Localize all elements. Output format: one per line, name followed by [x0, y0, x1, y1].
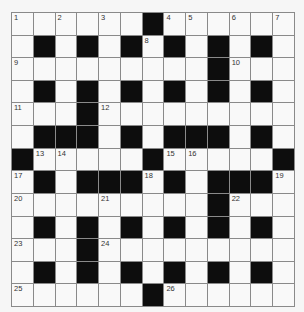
grid-cell[interactable]: 1 [12, 13, 33, 35]
grid-cell[interactable] [273, 194, 294, 216]
grid-cell[interactable] [99, 284, 120, 306]
grid-cell[interactable] [186, 284, 207, 306]
grid-cell[interactable] [56, 103, 77, 125]
grid-cell[interactable]: 6 [230, 13, 251, 35]
grid-cell[interactable] [208, 13, 229, 35]
grid-cell[interactable] [186, 217, 207, 239]
grid-cell[interactable] [273, 284, 294, 306]
grid-cell[interactable]: 4 [164, 13, 185, 35]
grid-cell[interactable] [273, 239, 294, 261]
grid-cell[interactable] [121, 149, 142, 171]
grid-cell[interactable]: 25 [12, 284, 33, 306]
grid-cell[interactable] [230, 81, 251, 103]
grid-cell[interactable] [273, 126, 294, 148]
grid-cell[interactable] [230, 284, 251, 306]
grid-cell[interactable] [164, 58, 185, 80]
grid-cell[interactable] [186, 171, 207, 193]
grid-cell[interactable]: 19 [273, 171, 294, 193]
grid-cell[interactable] [251, 194, 272, 216]
grid-cell[interactable]: 7 [273, 13, 294, 35]
grid-cell[interactable] [164, 239, 185, 261]
grid-cell[interactable] [186, 81, 207, 103]
grid-cell[interactable] [230, 36, 251, 58]
grid-cell[interactable] [56, 171, 77, 193]
grid-cell[interactable]: 22 [230, 194, 251, 216]
grid-cell[interactable] [251, 13, 272, 35]
grid-cell[interactable] [56, 194, 77, 216]
grid-cell[interactable] [251, 284, 272, 306]
grid-cell[interactable] [251, 239, 272, 261]
grid-cell[interactable] [121, 284, 142, 306]
grid-cell[interactable]: 11 [12, 103, 33, 125]
grid-cell[interactable] [143, 58, 164, 80]
grid-cell[interactable] [186, 194, 207, 216]
grid-cell[interactable] [56, 81, 77, 103]
grid-cell[interactable] [230, 217, 251, 239]
grid-cell[interactable] [273, 217, 294, 239]
grid-cell[interactable] [164, 103, 185, 125]
grid-cell[interactable]: 23 [12, 239, 33, 261]
grid-cell[interactable] [143, 262, 164, 284]
grid-cell[interactable] [230, 103, 251, 125]
grid-cell[interactable]: 9 [12, 58, 33, 80]
grid-cell[interactable]: 14 [56, 149, 77, 171]
grid-cell[interactable] [273, 81, 294, 103]
grid-cell[interactable] [99, 58, 120, 80]
grid-cell[interactable] [208, 239, 229, 261]
grid-cell[interactable] [121, 58, 142, 80]
grid-cell[interactable] [99, 149, 120, 171]
grid-cell[interactable]: 15 [164, 149, 185, 171]
grid-cell[interactable] [34, 58, 55, 80]
grid-cell[interactable] [121, 239, 142, 261]
grid-cell[interactable] [12, 217, 33, 239]
grid-cell[interactable] [99, 217, 120, 239]
grid-cell[interactable]: 5 [186, 13, 207, 35]
grid-cell[interactable] [34, 103, 55, 125]
grid-cell[interactable] [143, 126, 164, 148]
grid-cell[interactable] [77, 194, 98, 216]
grid-cell[interactable] [77, 149, 98, 171]
grid-cell[interactable]: 26 [164, 284, 185, 306]
grid-cell[interactable] [186, 103, 207, 125]
grid-cell[interactable] [186, 58, 207, 80]
grid-cell[interactable] [143, 194, 164, 216]
grid-cell[interactable] [251, 149, 272, 171]
grid-cell[interactable] [143, 217, 164, 239]
grid-cell[interactable]: 10 [230, 58, 251, 80]
grid-cell[interactable] [273, 262, 294, 284]
grid-cell[interactable] [12, 262, 33, 284]
grid-cell[interactable] [99, 81, 120, 103]
grid-cell[interactable] [12, 126, 33, 148]
grid-cell[interactable] [230, 126, 251, 148]
grid-cell[interactable] [230, 149, 251, 171]
grid-cell[interactable] [34, 13, 55, 35]
grid-cell[interactable] [251, 103, 272, 125]
grid-cell[interactable] [186, 239, 207, 261]
grid-cell[interactable] [208, 149, 229, 171]
grid-cell[interactable]: 3 [99, 13, 120, 35]
grid-cell[interactable] [99, 262, 120, 284]
grid-cell[interactable] [208, 284, 229, 306]
grid-cell[interactable] [56, 284, 77, 306]
grid-cell[interactable] [34, 194, 55, 216]
grid-cell[interactable] [12, 81, 33, 103]
grid-cell[interactable] [273, 103, 294, 125]
grid-cell[interactable] [77, 13, 98, 35]
grid-cell[interactable] [34, 239, 55, 261]
grid-cell[interactable] [186, 36, 207, 58]
grid-cell[interactable] [34, 284, 55, 306]
grid-cell[interactable]: 17 [12, 171, 33, 193]
grid-cell[interactable] [56, 217, 77, 239]
grid-cell[interactable]: 21 [99, 194, 120, 216]
grid-cell[interactable] [273, 36, 294, 58]
grid-cell[interactable]: 20 [12, 194, 33, 216]
grid-cell[interactable] [121, 13, 142, 35]
grid-cell[interactable] [121, 103, 142, 125]
grid-cell[interactable] [99, 126, 120, 148]
grid-cell[interactable] [77, 58, 98, 80]
grid-cell[interactable] [56, 36, 77, 58]
grid-cell[interactable] [208, 103, 229, 125]
grid-cell[interactable] [230, 262, 251, 284]
grid-cell[interactable] [230, 239, 251, 261]
grid-cell[interactable] [143, 239, 164, 261]
